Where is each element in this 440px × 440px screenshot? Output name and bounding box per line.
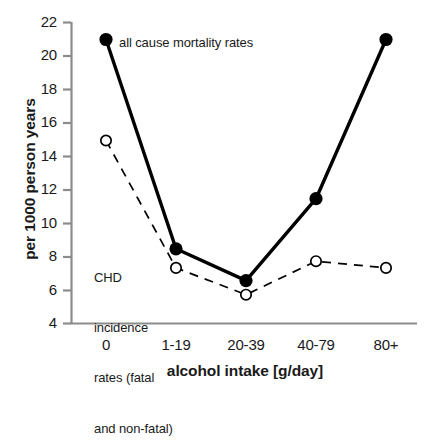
annotation-chd-line-3: rates (fatal bbox=[94, 370, 173, 387]
annotation-chd-line-1: CHD bbox=[94, 270, 173, 287]
x-tick-label-40-79: 40-79 bbox=[281, 336, 351, 353]
annotation-chd: CHD incidence rates (fatal and non-fatal… bbox=[94, 236, 173, 440]
x-tick-label-80plus: 80+ bbox=[351, 336, 421, 353]
x-tick-label-20-39: 20-39 bbox=[211, 336, 281, 353]
annotation-mortality: all cause mortality rates bbox=[119, 35, 253, 52]
y-axis-title: per 1000 person years bbox=[21, 79, 39, 279]
y-tick-label: 20 bbox=[15, 46, 57, 63]
annotation-chd-line-4: and non-fatal) bbox=[94, 421, 173, 438]
y-tick-label: 4 bbox=[15, 314, 57, 331]
annotation-chd-line-2: incidence bbox=[94, 320, 173, 337]
y-tick-label: 22 bbox=[15, 13, 57, 30]
y-axis-ticks bbox=[63, 23, 71, 324]
y-tick-label: 6 bbox=[15, 281, 57, 298]
